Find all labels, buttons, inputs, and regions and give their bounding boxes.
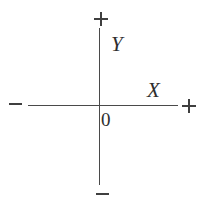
y-axis-label: Y xyxy=(111,34,123,55)
minus-horizontal-bar xyxy=(96,193,109,195)
origin-label: 0 xyxy=(101,110,111,129)
y-axis-negative-sign xyxy=(96,193,109,196)
x-axis-label: X xyxy=(147,80,160,101)
x-axis-positive-sign xyxy=(182,99,196,113)
x-axis-line xyxy=(28,105,178,106)
plus-vertical-bar xyxy=(188,99,190,113)
diagram-canvas: Y X 0 xyxy=(0,0,209,203)
y-axis-line xyxy=(99,28,100,185)
x-axis-negative-sign xyxy=(9,103,22,106)
minus-horizontal-bar xyxy=(9,103,22,105)
plus-vertical-bar xyxy=(100,12,102,26)
y-axis-positive-sign xyxy=(94,12,108,26)
